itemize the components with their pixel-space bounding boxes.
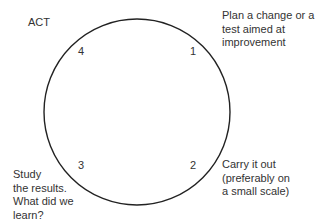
label-do: Carry it out (preferably on a small scal…: [222, 158, 290, 199]
label-study: Study the results. What did we learn?: [13, 168, 74, 222]
step-number-2: 2: [190, 159, 196, 171]
step-number-3: 3: [78, 159, 84, 171]
step-number-4: 4: [78, 45, 84, 57]
label-plan: Plan a change or a test aimed at improve…: [222, 9, 314, 50]
step-number-1: 1: [190, 45, 196, 57]
label-act: ACT: [28, 16, 50, 30]
